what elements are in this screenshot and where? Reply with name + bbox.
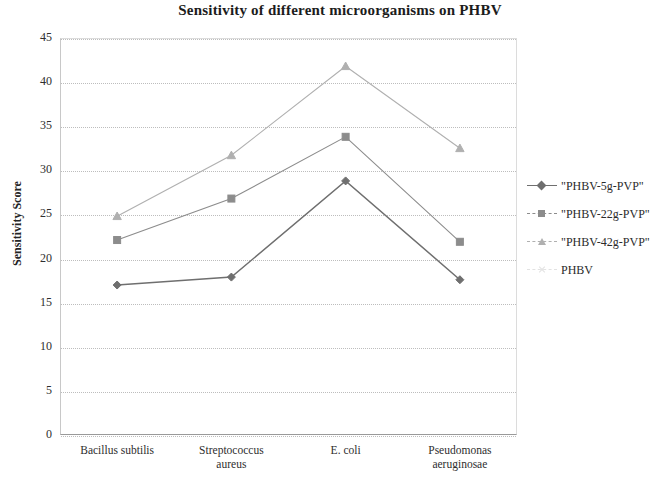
gridline <box>61 215 516 216</box>
y-axis-tick-label: 15 <box>18 295 52 310</box>
x-axis-tick-label-line: E. coli <box>281 443 411 457</box>
x-axis-tick-label: Bacillus subtilis <box>52 443 182 457</box>
legend-item[interactable]: PHBV <box>527 256 672 284</box>
gridline <box>61 392 516 393</box>
gridline <box>61 348 516 349</box>
y-axis-tick-label: 5 <box>18 383 52 398</box>
legend-item[interactable]: "PHBV-42g-PVP" <box>527 228 672 256</box>
x-axis-tick-label-line: aureus <box>166 457 296 471</box>
gridline <box>61 260 516 261</box>
gridline <box>61 127 516 128</box>
legend-marker-x <box>538 266 546 274</box>
chart-legend: "PHBV-5g-PVP""PHBV-22g-PVP""PHBV-42g-PVP… <box>527 172 672 284</box>
y-axis-tick-label: 20 <box>18 251 52 266</box>
gridline <box>61 39 516 40</box>
y-axis-tick-label: 10 <box>18 339 52 354</box>
legend-item[interactable]: "PHBV-22g-PVP" <box>527 200 672 228</box>
legend-square-icon <box>527 207 557 221</box>
x-axis-tick-label-line: Pseudomonas <box>395 443 525 457</box>
legend-item-label: PHBV <box>560 263 593 278</box>
gridline <box>61 83 516 84</box>
y-axis-tick-label: 35 <box>18 118 52 133</box>
y-axis-tick-label: 0 <box>18 427 52 442</box>
legend-item-label: "PHBV-5g-PVP" <box>560 179 644 194</box>
x-axis-tick-label: Streptococcusaureus <box>166 443 296 471</box>
plot-area <box>60 38 517 435</box>
legend-item-label: "PHBV-22g-PVP" <box>560 207 650 222</box>
x-axis-tick-label-line: aeruginosae <box>395 457 525 471</box>
gridline <box>61 171 516 172</box>
legend-marker-square <box>538 210 545 217</box>
gridline <box>61 304 516 305</box>
x-axis-tick-label-line: Bacillus subtilis <box>52 443 182 457</box>
legend-diamond-icon <box>527 179 557 193</box>
legend-triangle-icon <box>527 235 557 249</box>
x-axis-tick-label: Pseudomonasaeruginosae <box>395 443 525 471</box>
gridline <box>61 436 516 437</box>
y-axis-tick-label: 45 <box>18 30 52 45</box>
legend-marker-triangle <box>538 238 546 245</box>
legend-item[interactable]: "PHBV-5g-PVP" <box>527 172 672 200</box>
legend-item-label: "PHBV-42g-PVP" <box>560 235 650 250</box>
x-axis-tick-label-line: Streptococcus <box>166 443 296 457</box>
x-axis-tick-label: E. coli <box>281 443 411 457</box>
y-axis-tick-label: 30 <box>18 162 52 177</box>
legend-marker-diamond <box>537 181 547 191</box>
legend-x-icon <box>527 263 557 277</box>
line-chart: Sensitivity of different microorganisms … <box>0 0 672 485</box>
y-axis-tick-label: 40 <box>18 74 52 89</box>
chart-title: Sensitivity of different microorganisms … <box>60 2 620 19</box>
y-axis-tick-label: 25 <box>18 206 52 221</box>
